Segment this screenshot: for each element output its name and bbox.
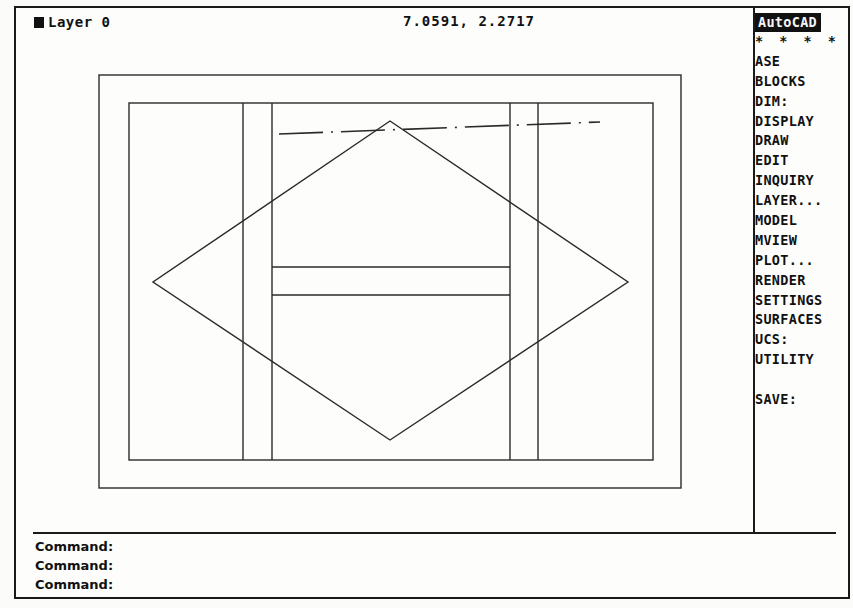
menu-item-save[interactable]: SAVE: xyxy=(755,390,850,410)
menu-item-mview[interactable]: MVIEW xyxy=(755,231,850,251)
menu-item-layer[interactable]: LAYER... xyxy=(755,191,850,211)
command-history-line-1: Command: xyxy=(35,537,113,556)
command-line-area[interactable]: Command: Command: Command: xyxy=(35,537,113,594)
menu-item-ucs[interactable]: UCS: xyxy=(755,330,850,350)
outer-border-rect xyxy=(99,75,681,488)
screen-menu: AutoCAD * * * * ASE BLOCKS DIM: DISPLAY … xyxy=(755,12,850,410)
inner-border-rect xyxy=(129,103,653,460)
menu-item-plot[interactable]: PLOT... xyxy=(755,251,850,271)
menu-item-dim[interactable]: DIM: xyxy=(755,92,850,112)
menu-item-utility[interactable]: UTILITY xyxy=(755,350,850,370)
menu-item-inquiry[interactable]: INQUIRY xyxy=(755,171,850,191)
menu-item-surfaces[interactable]: SURFACES xyxy=(755,310,850,330)
menu-item-model[interactable]: MODEL xyxy=(755,211,850,231)
menu-item-display[interactable]: DISPLAY xyxy=(755,112,850,132)
diamond-shape xyxy=(153,121,628,440)
dash-dot-centerline xyxy=(279,122,600,134)
menu-item-ase[interactable]: ASE xyxy=(755,52,850,72)
menu-item-draw[interactable]: DRAW xyxy=(755,131,850,151)
menu-spacer xyxy=(755,370,850,390)
menu-item-edit[interactable]: EDIT xyxy=(755,151,850,171)
command-divider xyxy=(33,532,836,534)
command-history-line-2: Command: xyxy=(35,556,113,575)
menu-item-settings[interactable]: SETTINGS xyxy=(755,291,850,311)
menu-header-autocad[interactable]: AutoCAD xyxy=(755,13,821,32)
menu-item-stars[interactable]: * * * * xyxy=(755,32,850,52)
menu-item-blocks[interactable]: BLOCKS xyxy=(755,72,850,92)
drawing-canvas[interactable] xyxy=(0,0,853,608)
command-prompt-line[interactable]: Command: xyxy=(35,575,113,594)
menu-item-render[interactable]: RENDER xyxy=(755,271,850,291)
